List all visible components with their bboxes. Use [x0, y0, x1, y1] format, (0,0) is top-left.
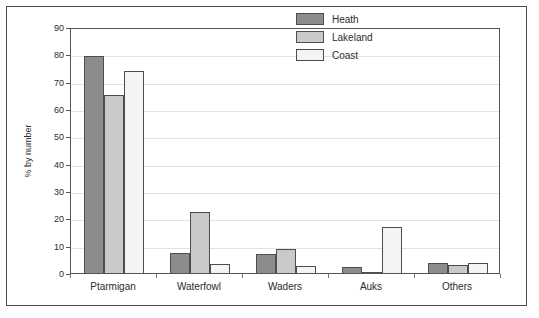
legend-label: Lakeland — [332, 32, 373, 43]
x-axis-tick-label: Ptarmigan — [90, 281, 136, 292]
y-axis-tick-label: 60 — [54, 105, 64, 115]
y-axis-tick-mark — [66, 247, 70, 248]
bar — [190, 212, 210, 274]
x-axis-tick-label: Auks — [360, 281, 382, 292]
y-axis-tick-mark — [66, 55, 70, 56]
y-axis-tick-label: 90 — [54, 23, 64, 33]
legend-item: Heath — [296, 13, 373, 25]
x-axis-tick-label: Others — [442, 281, 472, 292]
bar — [124, 71, 144, 273]
legend-swatch — [296, 13, 324, 25]
bar-group — [415, 29, 501, 273]
y-axis-tick-label: 0 — [59, 269, 64, 279]
bar — [342, 267, 362, 273]
y-axis-tick-mark — [66, 219, 70, 220]
bar — [84, 56, 104, 273]
y-axis-tick-label: 20 — [54, 214, 64, 224]
bar — [104, 95, 124, 273]
bar — [448, 265, 468, 273]
y-axis-tick-mark — [66, 110, 70, 111]
y-axis-tick-mark — [66, 137, 70, 138]
bar — [428, 263, 448, 273]
y-axis-tick-label: 30 — [54, 187, 64, 197]
y-axis-title: % by number — [23, 124, 33, 177]
bar-group — [329, 29, 415, 273]
bar-group — [243, 29, 329, 273]
y-axis-tick-mark — [66, 192, 70, 193]
legend-label: Coast — [332, 50, 358, 61]
bar — [296, 266, 316, 273]
y-axis-tick-mark — [66, 83, 70, 84]
bar — [170, 253, 190, 273]
x-axis-tick-mark — [242, 274, 243, 278]
y-axis-tick-label: 80 — [54, 50, 64, 60]
x-axis-tick-mark — [70, 274, 71, 278]
plot-area — [71, 29, 499, 273]
chart-screenshot: 0102030405060708090 PtarmiganWaterfowlWa… — [0, 0, 539, 318]
legend-item: Lakeland — [296, 31, 373, 43]
bar — [276, 249, 296, 273]
y-axis-tick-label: 10 — [54, 242, 64, 252]
plot-frame — [70, 28, 500, 274]
bar — [382, 227, 402, 273]
y-axis-tick-mark — [66, 165, 70, 166]
bar-group — [71, 29, 157, 273]
bar — [362, 272, 382, 273]
y-axis-tick-label: 40 — [54, 160, 64, 170]
bar — [256, 254, 276, 273]
chart-legend: HeathLakelandCoast — [296, 13, 373, 61]
x-axis-tick-mark — [500, 274, 501, 278]
bar — [468, 263, 488, 273]
bar-group — [157, 29, 243, 273]
y-axis-tick-label: 50 — [54, 132, 64, 142]
x-axis-tick-mark — [414, 274, 415, 278]
x-axis-tick-label: Waterfowl — [177, 281, 221, 292]
x-axis-tick-label: Waders — [268, 281, 302, 292]
y-axis-tick-label: 70 — [54, 78, 64, 88]
legend-item: Coast — [296, 49, 373, 61]
legend-label: Heath — [332, 14, 359, 25]
legend-swatch — [296, 31, 324, 43]
x-axis-tick-mark — [328, 274, 329, 278]
x-axis-tick-mark — [156, 274, 157, 278]
legend-swatch — [296, 49, 324, 61]
bar — [210, 264, 230, 273]
y-axis-tick-mark — [66, 28, 70, 29]
